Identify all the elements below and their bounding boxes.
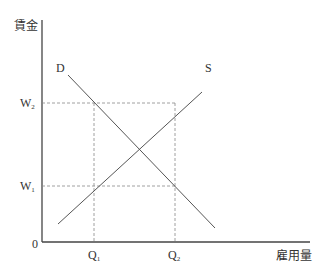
w1-label: W1 (20, 180, 35, 194)
demand-label: D (56, 62, 65, 74)
q1-label: Q1 (88, 249, 100, 263)
q2-label: Q2 (168, 249, 180, 263)
labor-market-diagram (0, 0, 328, 273)
origin-label: 0 (32, 238, 38, 250)
demand-curve (68, 75, 215, 228)
y-axis-label: 賃金 (14, 20, 38, 32)
supply-label: S (205, 62, 212, 74)
supply-curve (58, 92, 202, 224)
w2-label: W2 (20, 97, 35, 111)
x-axis-label: 雇用量 (276, 250, 312, 262)
